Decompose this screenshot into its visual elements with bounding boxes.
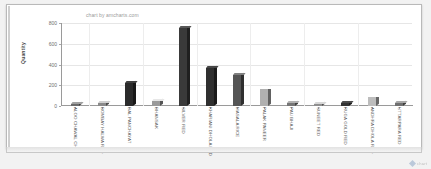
bar-chart: chart by amcharts.com Quantity 020040060… — [10, 6, 424, 149]
x-axis-label: RUGA GOLD RED — [340, 107, 349, 149]
x-axis-label: PALAK PANEER — [259, 107, 268, 149]
bar-top-face — [395, 101, 408, 103]
y-axis-title: Quantity — [20, 31, 26, 75]
bar-front-face — [395, 103, 403, 106]
x-axis-label: SILVER RED — [179, 107, 188, 149]
bar[interactable] — [98, 103, 106, 106]
corner-brand-mark: chart — [410, 159, 427, 167]
bar[interactable] — [260, 89, 268, 106]
corner-brand-label: chart — [417, 161, 427, 166]
bar-top-face — [179, 26, 192, 28]
bar-series — [62, 23, 412, 106]
x-axis-label: UTTARPARA RED — [394, 107, 403, 149]
bar-front-face — [314, 104, 322, 106]
bar[interactable] — [395, 103, 403, 106]
x-axis-label: SUNEET RED — [313, 107, 322, 149]
bar-front-face — [287, 103, 295, 106]
bar-front-face — [233, 75, 241, 106]
y-axis-tick-mark — [59, 106, 61, 107]
y-axis-tick-mark — [59, 44, 61, 45]
bar[interactable] — [179, 28, 187, 106]
bar[interactable] — [314, 104, 322, 106]
bar-top-face — [206, 66, 219, 68]
window-bottom-edge — [6, 147, 422, 153]
bar-top-face — [233, 73, 246, 75]
x-axis-labels: ALOO CHAWAL CHATBOMBAY HALWA REDDAL PANC… — [62, 107, 412, 149]
x-axis-label: ALOO CHAWAL CHAT — [71, 107, 80, 149]
bar-front-face — [179, 28, 187, 106]
screenshot-root: chart by amcharts.com Quantity 020040060… — [0, 0, 431, 169]
x-axis-label-text: SILVER RED — [181, 107, 186, 134]
bar-top-face — [368, 95, 381, 97]
bar-front-face — [341, 103, 349, 106]
bar-top-face — [71, 102, 84, 104]
x-axis-label: PAU BHAJI — [286, 107, 295, 149]
bar[interactable] — [368, 97, 376, 106]
y-axis-tick-mark — [59, 85, 61, 86]
x-axis-label: MASALA RICE — [233, 107, 242, 149]
y-axis-tick-mark — [59, 65, 61, 66]
corner-diamond-icon — [409, 159, 416, 166]
bar[interactable] — [341, 103, 349, 106]
x-axis-label: DHANSAK — [152, 107, 161, 149]
chart-window: chart by amcharts.com Quantity 020040060… — [6, 4, 422, 149]
y-axis-tick-label: 200 — [31, 82, 57, 88]
bar-front-face — [260, 89, 268, 106]
chart-watermark: chart by amcharts.com — [86, 12, 139, 18]
x-axis-label-text: UTTARPARA RED — [396, 107, 401, 144]
bar-side-face — [133, 81, 136, 106]
x-axis-label-text: DAL PANCHAYAT — [127, 107, 132, 143]
bar-front-face — [368, 97, 376, 106]
bar[interactable] — [206, 68, 214, 106]
x-axis-label-text: RUGA GOLD RED — [342, 107, 347, 145]
bar-side-face — [187, 26, 190, 106]
x-axis-label-text: MASALA RICE — [235, 107, 240, 137]
bar-side-face — [268, 87, 271, 106]
bar-top-face — [98, 101, 111, 103]
y-axis-tick-label: 800 — [31, 20, 57, 26]
bar[interactable] — [233, 75, 241, 106]
bar-front-face — [206, 68, 214, 106]
y-axis-tick-label: 600 — [31, 41, 57, 47]
x-axis-label: DAL PANCHAYAT — [125, 107, 134, 149]
bar[interactable] — [71, 104, 79, 106]
x-axis-label-text: DHANSAK — [154, 107, 159, 129]
x-axis-label-text: PAU BHAJI — [288, 107, 293, 130]
x-axis-label: ANDHRA DHOLA RED — [367, 107, 376, 149]
y-axis-tick-label: 400 — [31, 62, 57, 68]
bar-side-face — [241, 73, 244, 106]
x-axis-label-text: PALAK PANEER — [261, 107, 266, 141]
bar-side-face — [214, 65, 217, 106]
y-axis-tick-mark — [59, 23, 61, 24]
bar-top-face — [125, 81, 138, 83]
chart-window-inner: chart by amcharts.com Quantity 020040060… — [8, 6, 420, 147]
bar-top-face — [260, 87, 273, 89]
x-axis-label: KHARIANI DHOLA RED — [206, 107, 215, 149]
bar[interactable] — [152, 101, 160, 106]
bar[interactable] — [287, 103, 295, 106]
y-axis-tick-label: 0 — [31, 103, 57, 109]
bar[interactable] — [125, 83, 133, 106]
bar-top-face — [314, 102, 327, 104]
x-axis-label: BOMBAY HALWA RED — [98, 107, 107, 149]
x-axis-label-text: SUNEET RED — [315, 107, 320, 136]
